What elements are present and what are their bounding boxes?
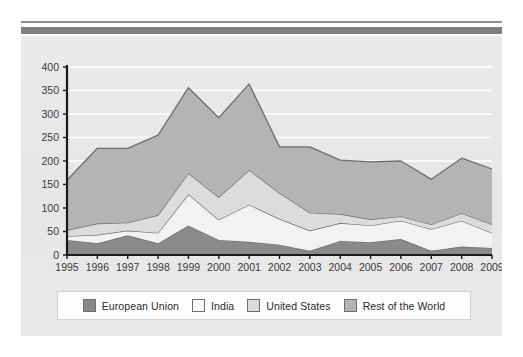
x-tick-label: 2009 (480, 261, 502, 273)
x-tick-label: 2006 (389, 261, 413, 273)
y-tick-label: 150 (41, 178, 59, 190)
x-tick-label: 1998 (146, 261, 170, 273)
x-axis-tick-labels: 1995199619971998199920002001200220032004… (55, 261, 502, 273)
x-tick-label: 1996 (86, 261, 110, 273)
chart-panel: 050100150200250300350400 199519961997199… (21, 36, 502, 336)
x-tick-label: 2001 (237, 261, 261, 273)
y-axis-tick-labels: 050100150200250300350400 (41, 61, 59, 261)
y-tick-label: 250 (41, 131, 59, 143)
x-tick-label: 2000 (207, 261, 231, 273)
x-tick-label: 1999 (177, 261, 201, 273)
y-tick-label: 400 (41, 61, 59, 73)
x-tick-label: 2008 (450, 261, 474, 273)
chart-legend: European Union India United States Rest … (57, 291, 471, 320)
legend-label-rest-of-the-world: Rest of the World (363, 300, 446, 312)
legend-item-european-union[interactable]: European Union (83, 299, 179, 312)
legend-item-rest-of-the-world[interactable]: Rest of the World (344, 299, 446, 312)
x-tick-label: 2002 (268, 261, 292, 273)
x-tick-label: 2004 (329, 261, 353, 273)
y-tick-label: 0 (53, 249, 59, 261)
legend-swatch-european-union (83, 299, 96, 312)
y-tick-label: 100 (41, 202, 59, 214)
area-series-group (67, 84, 492, 255)
y-tick-label: 200 (41, 155, 59, 167)
legend-item-india[interactable]: India (192, 299, 234, 312)
x-tick-label: 2007 (420, 261, 444, 273)
x-tick-label: 1995 (55, 261, 79, 273)
legend-label-india: India (211, 300, 234, 312)
legend-item-united-states[interactable]: United States (247, 299, 330, 312)
x-tick-label: 2003 (298, 261, 322, 273)
y-tick-label: 350 (41, 84, 59, 96)
x-tick-label: 2005 (359, 261, 383, 273)
legend-swatch-india (192, 299, 205, 312)
y-tick-label: 300 (41, 108, 59, 120)
chart-page: 050100150200250300350400 199519961997199… (0, 0, 523, 357)
legend-label-european-union: European Union (102, 300, 179, 312)
header-rule-thick (21, 27, 502, 34)
x-tick-label: 1997 (116, 261, 140, 273)
header-rule-thin (21, 21, 502, 23)
y-tick-label: 50 (47, 225, 59, 237)
legend-swatch-rest-of-the-world (344, 299, 357, 312)
legend-swatch-united-states (247, 299, 260, 312)
legend-label-united-states: United States (266, 300, 330, 312)
